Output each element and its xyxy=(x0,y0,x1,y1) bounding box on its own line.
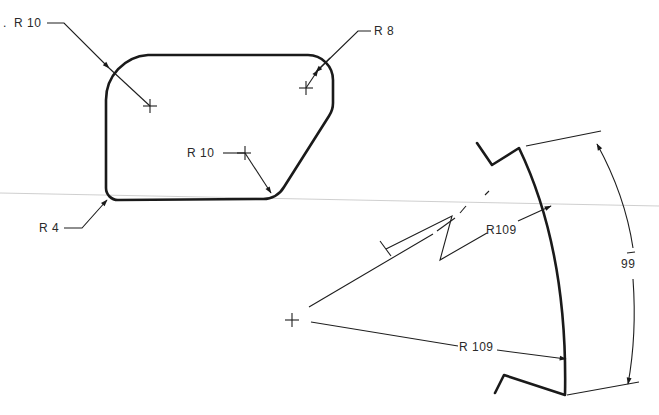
label-foreshortened-radius: R109 xyxy=(486,223,517,237)
label-top-left-radius: R 10 xyxy=(14,16,41,30)
large-arc-part: R109 R 109 99 xyxy=(285,131,639,395)
leading-mark: . xyxy=(3,16,7,30)
plate-outline xyxy=(106,55,333,200)
arc-dimension-line-upper xyxy=(597,144,633,248)
label-true-radius: R 109 xyxy=(459,340,494,354)
label-bottom-right-radius: R 10 xyxy=(187,146,214,160)
false-center-tick xyxy=(380,241,391,256)
scan-artifact-line xyxy=(0,193,659,206)
label-arc-dimension: 99 xyxy=(621,257,635,271)
label-bottom-left-radius: R 4 xyxy=(39,221,59,235)
leader-top-left-r10 xyxy=(47,23,109,68)
label-top-right-radius: R 8 xyxy=(374,24,394,38)
arc-dimension-line-lower xyxy=(628,279,634,384)
leader-bottom-right-r10 xyxy=(245,153,271,193)
leader-true-r109 xyxy=(311,322,458,346)
center-mark-arc xyxy=(285,313,299,327)
extension-line-top xyxy=(526,131,601,146)
rounded-plate-part: . R 10 R 8 R 10 R 4 xyxy=(3,16,394,235)
leader-bottom-left-r4 xyxy=(64,200,107,228)
drawing-canvas: . R 10 R 8 R 10 R 4 R109 xyxy=(0,0,659,415)
arc-symbol xyxy=(627,252,635,253)
arc-centerline xyxy=(309,234,433,307)
leader-foreshortened-r109 xyxy=(386,216,487,260)
